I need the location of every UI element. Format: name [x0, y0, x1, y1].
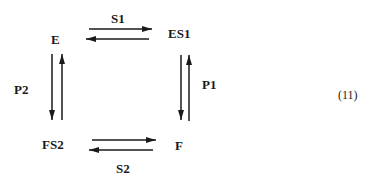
edge-label-s1: S1 [111, 12, 125, 25]
edge-label-s2: S2 [116, 162, 130, 175]
edge-label-p2: P2 [14, 83, 28, 96]
node-es1: ES1 [168, 27, 190, 40]
node-f: F [175, 139, 183, 152]
node-fs2: FS2 [42, 138, 64, 151]
node-e: E [51, 33, 60, 46]
equation-number: (11) [338, 89, 358, 101]
edge-label-p1: P1 [202, 78, 216, 91]
